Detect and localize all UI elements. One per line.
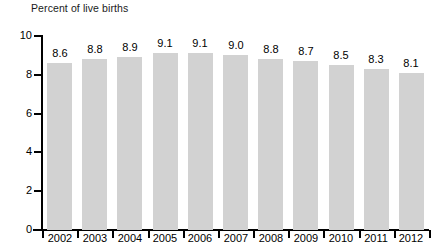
x-axis-label: 2002 [42, 232, 78, 245]
bar-value-label: 9.1 [184, 38, 216, 49]
bar-value-label: 8.6 [44, 48, 76, 59]
y-axis-tick-label-wrap: 2 [0, 185, 32, 196]
bar [293, 61, 318, 230]
x-axis-label: 2010 [323, 232, 359, 245]
bar-value-label: 8.1 [395, 58, 427, 69]
bar-value-label: 9.1 [149, 38, 181, 49]
bar-value-label: 8.8 [79, 44, 111, 55]
y-axis-tick-label: 6 [4, 108, 32, 119]
bar [258, 59, 283, 230]
y-axis-tick-label-wrap: 10 [0, 30, 32, 41]
bar-value-label: 8.8 [255, 44, 287, 55]
x-axis-label: 2011 [358, 232, 394, 245]
bar [117, 57, 142, 230]
x-axis-label: 2009 [288, 232, 324, 245]
y-axis-tick-label-wrap: 6 [0, 108, 32, 119]
bar-value-label: 9.0 [220, 40, 252, 51]
bar [82, 59, 107, 230]
bar-value-label: 8.3 [360, 54, 392, 65]
bar [364, 69, 389, 230]
y-axis-line [41, 35, 43, 231]
bar-chart-screenshot: Percent of live births 0246810 8.68.88.9… [0, 0, 437, 248]
y-axis-tick-label: 0 [4, 224, 32, 235]
y-axis-tick [34, 229, 42, 231]
y-axis-tick-label: 2 [4, 185, 32, 196]
chart-title: Percent of live births [31, 2, 128, 15]
y-axis-tick-label: 8 [4, 69, 32, 80]
y-axis-tick-label: 10 [4, 30, 32, 41]
y-axis-tick [34, 151, 42, 153]
x-axis-label: 2012 [393, 232, 429, 245]
bar [399, 73, 424, 230]
y-axis-tick [34, 113, 42, 115]
bar [188, 53, 213, 230]
y-axis-tick-label-wrap: 0 [0, 224, 32, 235]
bar [223, 55, 248, 230]
y-axis-tick-label-wrap: 8 [0, 69, 32, 80]
y-axis-tick-label: 4 [4, 146, 32, 157]
bar [329, 65, 354, 230]
x-axis-label: 2005 [147, 232, 183, 245]
y-axis-tick [34, 35, 42, 37]
y-axis-tick-label-wrap: 4 [0, 146, 32, 157]
bar [47, 63, 72, 230]
x-axis-label: 2003 [77, 232, 113, 245]
bar-value-label: 8.5 [325, 50, 357, 61]
bar [153, 53, 178, 230]
x-axis-label: 2004 [112, 232, 148, 245]
x-axis-label: 2008 [253, 232, 289, 245]
x-axis-label: 2006 [182, 232, 218, 245]
bar-value-label: 8.9 [114, 42, 146, 53]
bar-value-label: 8.7 [290, 46, 322, 57]
y-axis-tick [34, 74, 42, 76]
x-axis-label: 2007 [218, 232, 254, 245]
y-axis-tick [34, 190, 42, 192]
x-axis-tick [429, 230, 431, 238]
